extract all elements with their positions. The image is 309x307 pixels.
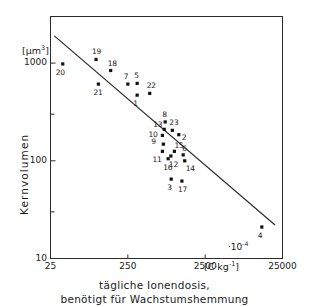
data-point-marker: [260, 225, 263, 228]
x-axis-unit-label: [C·kg-1]: [204, 262, 239, 272]
y-tick-label: 1000: [0, 58, 47, 67]
data-point-label: 21: [93, 89, 102, 97]
data-point-label: 2: [182, 134, 187, 142]
data-point-label: 20: [56, 69, 65, 77]
data-point-label: 6: [182, 145, 187, 153]
data-point-label: 9: [151, 138, 156, 146]
caption-line-2: benötigt für Wachstumshemmung: [0, 294, 309, 305]
y-tick-label: 100: [0, 156, 47, 165]
data-point-label: 18: [108, 60, 117, 68]
data-point-marker: [180, 179, 183, 182]
data-point-label: 17: [178, 186, 187, 194]
data-point-label: 11: [152, 156, 161, 164]
x-tick-label: 25: [27, 262, 75, 271]
data-point-label: 3: [167, 184, 172, 192]
figure-kernvolumen-ionendosis: 2019182175122813232109111512166143174 [µ…: [0, 0, 309, 307]
data-point-marker: [177, 133, 180, 136]
axis-ticks: [51, 63, 283, 258]
y-axis-title: Kernvolumen: [19, 134, 30, 215]
data-point-marker: [61, 62, 64, 65]
data-point-marker: [161, 134, 164, 137]
data-point-label: 22: [147, 82, 156, 90]
x-tick-label: 25000: [259, 262, 307, 271]
x-tick-label: 250: [104, 262, 152, 271]
data-point-marker: [170, 177, 173, 180]
data-point-label: 16: [163, 164, 172, 172]
plot-frame: [51, 17, 283, 259]
data-point-marker: [97, 82, 100, 85]
data-point-marker: [148, 92, 151, 95]
data-point-marker: [161, 150, 164, 153]
data-point-marker: [126, 82, 129, 85]
data-point-marker: [183, 159, 186, 162]
data-point-marker: [182, 153, 185, 156]
data-point-label: 8: [162, 111, 167, 119]
data-points: [61, 58, 263, 229]
data-point-marker: [164, 120, 167, 123]
data-point-label: 13: [153, 121, 162, 129]
data-point-marker: [169, 154, 172, 157]
data-point-label: 5: [134, 72, 139, 80]
data-point-label: 7: [124, 73, 129, 81]
data-point-marker: [171, 129, 174, 132]
caption-line-1: tägliche Ionendosis,: [0, 280, 309, 291]
data-point-marker: [136, 94, 139, 97]
data-point-label: 19: [92, 48, 101, 56]
data-point-marker: [94, 58, 97, 61]
data-point-label: 1: [133, 100, 138, 108]
data-point-label: 14: [186, 165, 195, 173]
data-point-marker: [162, 143, 165, 146]
data-point-marker: [109, 69, 112, 72]
data-point-marker: [163, 128, 166, 131]
y-axis-unit-label: [µm3]: [22, 46, 49, 56]
data-point-marker: [173, 150, 176, 153]
data-point-marker: [136, 82, 139, 85]
x-axis-multiplier-label: ·10-4: [228, 243, 248, 252]
data-point-label: 4: [258, 232, 263, 240]
data-point-label: 23: [169, 119, 178, 127]
